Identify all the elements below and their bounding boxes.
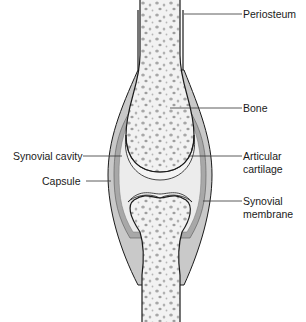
label-articular-cartilage-line1: Articular: [243, 150, 282, 162]
label-periosteum: Periosteum: [243, 8, 296, 20]
label-articular-cartilage-line2: cartilage: [243, 163, 283, 175]
label-capsule: Capsule: [42, 175, 81, 187]
label-synovial-membrane-line1: Synovial: [243, 195, 283, 207]
label-bone: Bone: [243, 102, 268, 114]
label-synovial-membrane-line2: membrane: [243, 208, 293, 220]
label-synovial-cavity: Synovial cavity: [13, 150, 82, 162]
